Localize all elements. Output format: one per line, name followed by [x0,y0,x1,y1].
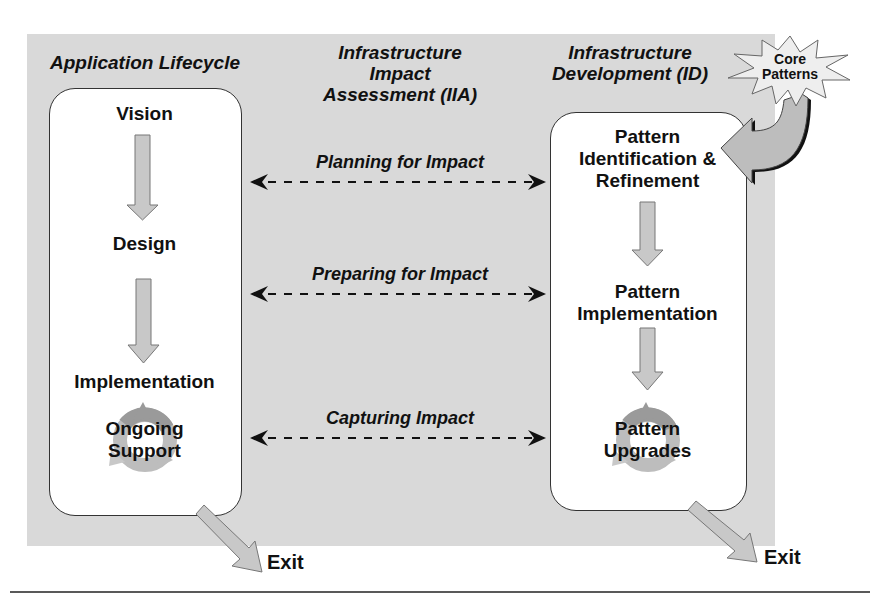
step-pattern-identification-line3: Refinement [550,170,745,192]
capturing-impact-label: Capturing Impact [260,408,540,429]
step-pattern-identification-line2: Identification & [550,148,745,170]
diagram-graphics [0,0,881,601]
step-pattern-implementation-line1: Pattern [550,281,745,303]
step-pattern-upgrades: Pattern Upgrades [550,418,745,462]
step-pattern-implementation: Pattern Implementation [550,281,745,325]
exit-label-right: Exit [764,546,801,569]
step-pattern-identification-line1: Pattern [550,126,745,148]
preparing-impact-label: Preparing for Impact [260,264,540,285]
exit-label-left: Exit [267,551,304,574]
exit-arrow-icon [196,505,262,572]
step-implementation: Implementation [49,371,240,393]
arrow-down-icon [127,135,158,220]
step-pattern-upgrades-line1: Pattern [550,418,745,440]
arrow-down-icon [128,279,159,363]
step-design: Design [49,233,240,255]
exit-arrow-icon [688,501,757,562]
step-pattern-implementation-line2: Implementation [550,303,745,325]
core-patterns-line1: Core [748,52,832,67]
step-vision: Vision [49,103,240,125]
step-ongoing-support: Ongoing Support [49,418,240,462]
step-pattern-upgrades-line2: Upgrades [550,440,745,462]
step-pattern-identification: Pattern Identification & Refinement [550,126,745,192]
arrow-down-icon [632,202,663,266]
core-patterns-line2: Patterns [748,67,832,82]
core-patterns-label: Core Patterns [748,52,832,82]
step-ongoing-support-line1: Ongoing [49,418,240,440]
arrow-down-icon [632,328,663,390]
step-ongoing-support-line2: Support [49,440,240,462]
planning-impact-label: Planning for Impact [260,152,540,173]
